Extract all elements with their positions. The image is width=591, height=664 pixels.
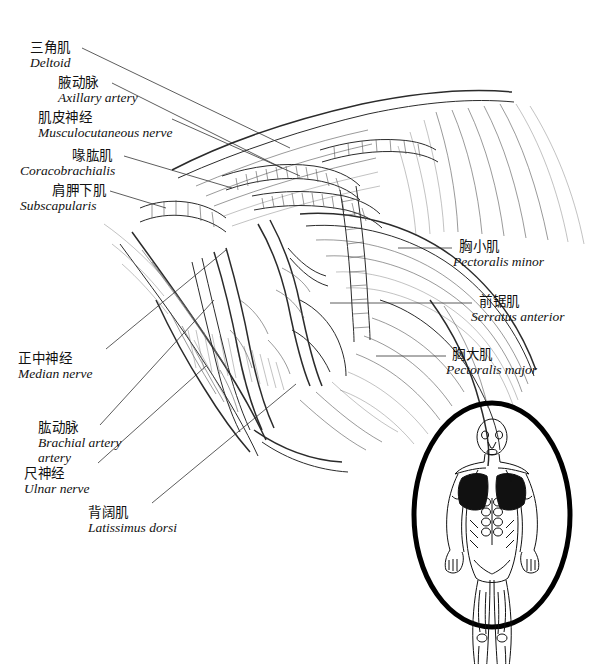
label-brachial-artery-cn: 肱动脉 (38, 420, 122, 435)
leader-musculocutaneous (172, 119, 300, 176)
label-axillary-artery-la: Axillary artery (58, 90, 138, 105)
inset-orientation-diagram (414, 403, 570, 664)
label-brachial-artery-la: Brachial artery (38, 435, 122, 450)
label-coracobrachialis: 喙肱肌 Coracobrachialis (72, 148, 115, 178)
label-median-nerve: 正中神经 Median nerve (18, 351, 93, 381)
label-coracobrachialis-cn: 喙肱肌 (72, 148, 115, 163)
label-serratus-anterior-la: Serratus anterior (471, 309, 564, 324)
label-deltoid: 三角肌 Deltoid (30, 40, 71, 70)
label-brachial-artery-la2: artery (38, 450, 122, 465)
label-pectoralis-major-la: Pectoralis major (446, 362, 537, 377)
label-ulnar-nerve-cn: 尺神经 (24, 466, 90, 481)
leader-subscapularis (110, 191, 166, 208)
label-ulnar-nerve: 尺神经 Ulnar nerve (24, 466, 90, 496)
ulnar-nerve-trunk (192, 258, 250, 432)
leader-median-nerve (106, 250, 226, 349)
label-serratus-anterior: 前锯肌 Serratus anterior (479, 294, 564, 324)
label-coracobrachialis-la: Coracobrachialis (20, 163, 115, 178)
anatomy-figure: 三角肌 Deltoid 腋动脉 Axillary artery 肌皮神经 Mus… (0, 0, 591, 664)
label-median-nerve-la: Median nerve (18, 366, 93, 381)
axillary-brachial-artery (258, 220, 328, 386)
label-subscapularis-la: Subscapularis (20, 198, 106, 213)
label-axillary-artery: 腋动脉 Axillary artery (58, 75, 138, 105)
leader-coracobrachialis (124, 156, 232, 188)
label-musculocutaneous-nerve-la: Musculocutaneous nerve (38, 125, 173, 140)
label-brachial-artery: 肱动脉 Brachial artery artery (38, 420, 122, 465)
median-nerve-trunk (214, 248, 274, 430)
vessel-branches (220, 268, 346, 412)
label-latissimus-dorsi-la: Latissimus dorsi (88, 520, 177, 535)
label-subscapularis: 肩胛下肌 Subscapularis (52, 183, 106, 213)
label-subscapularis-cn: 肩胛下肌 (52, 183, 106, 198)
label-musculocutaneous-nerve-cn: 肌皮神经 (38, 110, 173, 125)
label-pectoralis-major-cn: 胸大肌 (452, 347, 537, 362)
label-pectoralis-minor-cn: 胸小肌 (459, 239, 544, 254)
label-pectoralis-minor: 胸小肌 Pectoralis minor (459, 239, 544, 269)
label-latissimus-dorsi: 背阔肌 Latissimus dorsi (88, 505, 177, 535)
label-pectoralis-minor-la: Pectoralis minor (453, 254, 544, 269)
label-deltoid-cn: 三角肌 (30, 40, 71, 55)
serratus-anterior (340, 300, 500, 466)
label-deltoid-la: Deltoid (30, 55, 71, 70)
label-serratus-anterior-cn: 前锯肌 (479, 294, 564, 309)
lower-contours (254, 382, 398, 472)
pectoralis-major-fibres (398, 104, 584, 244)
label-latissimus-dorsi-cn: 背阔肌 (88, 505, 177, 520)
label-ulnar-nerve-la: Ulnar nerve (24, 481, 90, 496)
label-axillary-artery-cn: 腋动脉 (58, 75, 138, 90)
label-pectoralis-major: 胸大肌 Pectoralis major (452, 347, 537, 377)
label-musculocutaneous-nerve: 肌皮神经 Musculocutaneous nerve (38, 110, 173, 140)
label-median-nerve-cn: 正中神经 (18, 351, 93, 366)
